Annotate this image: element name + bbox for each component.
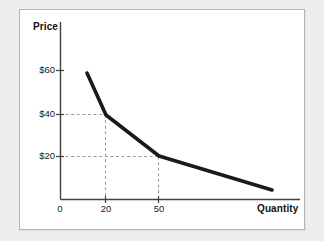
y-tick-label-20: $20 [25,150,55,161]
x-tick-label-50: 50 [147,203,171,214]
chart-panel [19,9,305,230]
y-tick-label-40: $40 [25,108,55,119]
x-tick-label-20: 20 [94,203,118,214]
y-tick-label-60: $60 [25,64,55,75]
x-tick-label-0: 0 [48,203,72,214]
y-axis-title: Price [33,21,58,32]
demand-curve-figure: Price Quantity $60 $40 $20 0 20 50 [0,0,324,241]
x-axis-title: Quantity [257,203,298,214]
